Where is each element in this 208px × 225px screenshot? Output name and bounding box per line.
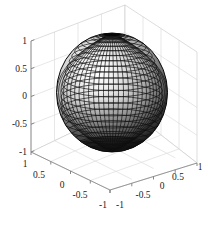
z-tick-label: -0.5: [12, 119, 27, 129]
x-tick-label: -1: [116, 200, 124, 210]
sphere-plot-figure: 1 0.5 0 -0.5 -1 1 0.5 0 -0.5 -1 -1 -0.5 …: [0, 0, 208, 225]
plot-canvas: 1 0.5 0 -0.5 -1 1 0.5 0 -0.5 -1 -1 -0.5 …: [0, 0, 208, 225]
z-tick-label: 0.5: [15, 64, 27, 74]
z-tick-label: 1: [22, 36, 27, 46]
z-tick-label: 0: [22, 91, 27, 101]
x-tick-label: 0.5: [172, 172, 184, 182]
x-tick-label: -0.5: [135, 190, 150, 200]
x-tick-label: 0: [160, 181, 165, 191]
y-tick-label: 0: [60, 180, 65, 190]
y-tick-label: -0.5: [72, 190, 87, 200]
y-tick-label: 0.5: [33, 170, 45, 180]
y-tick-label: -1: [99, 200, 107, 210]
z-tick-label: -1: [19, 147, 27, 157]
y-tick-label: 1: [23, 159, 28, 169]
z-axis-tick-labels: 1 0.5 0 -0.5 -1: [12, 36, 27, 157]
x-tick-label: 1: [198, 162, 203, 172]
